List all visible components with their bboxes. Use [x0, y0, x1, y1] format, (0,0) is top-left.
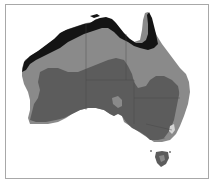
island [169, 151, 171, 153]
island [150, 150, 152, 152]
gulf-notch [114, 116, 124, 128]
australia-map [0, 0, 215, 185]
tiwi-islands [90, 14, 100, 18]
